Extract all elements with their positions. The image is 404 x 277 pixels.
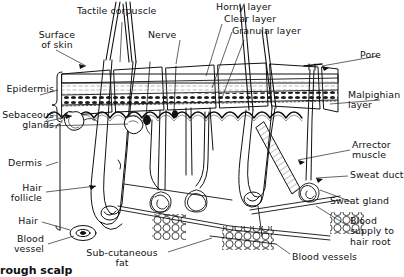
label-blood-supply-to-hair-root: Blood supply to hair root (350, 216, 394, 247)
label-malpighian-layer: Malpighian layer (348, 90, 400, 111)
label-sub-cutaneous-fat: Sub-cutaneous fat (76, 248, 168, 269)
label-dermis: Dermis (0, 158, 42, 168)
blood-vessel-oval (70, 226, 96, 241)
label-hair-follicle: Hair follicle (0, 183, 42, 204)
label-blood-vessel: Blood vessel (0, 234, 44, 255)
label-clear-layer: Clear layer (224, 14, 276, 24)
label-hair: Hair (0, 216, 38, 226)
label-nerve: Nerve (148, 30, 176, 40)
sebaceous-gland (64, 112, 143, 134)
label-arrector-muscle: Arrector muscle (352, 140, 391, 161)
label-sweat-duct: Sweat duct (350, 170, 404, 180)
epidermis-strata (62, 63, 338, 116)
label-sebaceous-glands: Sebaceous glands (0, 110, 54, 131)
figure-caption: rough scalp (0, 264, 72, 277)
label-granular-layer: Granular layer (232, 26, 301, 36)
label-tactile-corpuscle: Tactile corpuscle (77, 6, 156, 16)
leader-lines (40, 22, 380, 254)
hair-follicle-right (239, 108, 275, 207)
label-horny-layer: Horny layer (216, 2, 272, 12)
arrector-pili-muscle (256, 122, 300, 194)
dermis-bracket (56, 124, 60, 230)
label-sweat-gland: Sweat gland (330, 196, 389, 206)
label-blood-vessels: Blood vessels (292, 252, 357, 262)
label-epidermis: Epidermis (0, 84, 54, 94)
label-surface-of-skin: Surface of skin (26, 30, 88, 51)
label-pore: Pore (360, 50, 381, 60)
